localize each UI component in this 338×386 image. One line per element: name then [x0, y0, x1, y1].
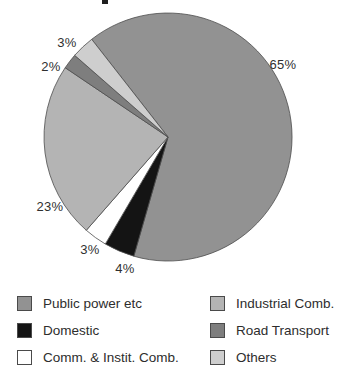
legend: Public power etcIndustrial Comb.Domestic… — [17, 296, 327, 365]
percentage-label-industrial-comb: 23% — [37, 199, 64, 214]
percentage-label-comm-instit-comb: 3% — [80, 242, 99, 257]
legend-item-others: Others — [210, 350, 334, 365]
legend-item-road-transport: Road Transport — [210, 323, 334, 338]
legend-swatch-industrial-comb — [210, 296, 225, 311]
legend-item-industrial-comb: Industrial Comb. — [210, 296, 334, 311]
legend-swatch-comm-instit-comb — [17, 350, 32, 365]
percentage-label-road-transport: 2% — [41, 59, 60, 74]
pie-chart-figure: 65%4%3%23%2%3% Public power etcIndustria… — [0, 0, 338, 386]
legend-label-public-power-etc: Public power etc — [43, 296, 142, 311]
legend-swatch-road-transport — [210, 323, 225, 338]
percentage-label-public-power-etc: 65% — [270, 57, 297, 72]
legend-item-comm-instit-comb: Comm. & Instit. Comb. — [17, 350, 210, 365]
legend-label-industrial-comb: Industrial Comb. — [236, 296, 334, 311]
legend-label-road-transport: Road Transport — [236, 323, 329, 338]
percentage-label-others: 3% — [57, 35, 76, 50]
legend-swatch-domestic — [17, 323, 32, 338]
legend-swatch-public-power-etc — [17, 296, 32, 311]
percentage-label-domestic: 4% — [115, 261, 134, 276]
legend-label-comm-instit-comb: Comm. & Instit. Comb. — [43, 350, 179, 365]
legend-label-others: Others — [236, 350, 277, 365]
legend-label-domestic: Domestic — [43, 323, 99, 338]
pie-slices-group — [44, 13, 292, 261]
legend-swatch-others — [210, 350, 225, 365]
legend-item-public-power-etc: Public power etc — [17, 296, 210, 311]
legend-item-domestic: Domestic — [17, 323, 210, 338]
